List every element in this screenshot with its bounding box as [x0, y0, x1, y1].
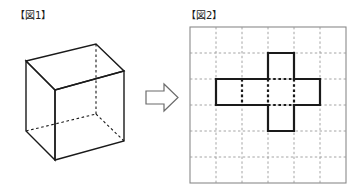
cube-front-face — [55, 71, 124, 160]
cube-hidden-edge-bottom-right — [96, 114, 124, 141]
cube-visible-edges — [26, 44, 124, 160]
arrow-shape — [146, 84, 178, 111]
cube-hidden-edges — [26, 44, 124, 141]
block-arrow-right-icon — [140, 75, 185, 120]
cube-left-face — [26, 61, 55, 160]
cube-net-drawing — [186, 24, 352, 184]
transform-arrow-panel — [140, 75, 185, 120]
figure-page: 【図1】 — [0, 0, 361, 191]
cube-hidden-edge-bottom-left — [26, 114, 96, 131]
figure-2-label: 【図2】 — [186, 10, 222, 22]
figure-1-cube-panel — [0, 28, 140, 178]
figure-1-label: 【図1】 — [15, 10, 51, 22]
figure-2-grid-panel — [186, 24, 352, 184]
cube-drawing — [0, 28, 140, 178]
cube-top-face — [26, 44, 124, 90]
